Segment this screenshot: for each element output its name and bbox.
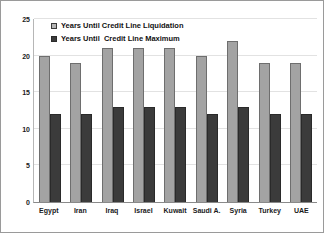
x-axis-label: Iran xyxy=(65,207,97,214)
x-axis-label: Turkey xyxy=(254,207,286,214)
bar-group xyxy=(286,19,317,202)
bar-syria-series-1 xyxy=(238,107,249,202)
bar-group xyxy=(65,19,96,202)
bar-chart-figure: 0510152025 EgyptIranIraqIsraelKuwaitSaud… xyxy=(0,0,324,233)
chart-legend: Years Until Credit Line LiquidationYears… xyxy=(51,20,184,46)
bar-group xyxy=(223,19,254,202)
bar-iran-series-0 xyxy=(70,63,81,202)
light-gray-square-icon xyxy=(51,23,57,29)
x-axis-label: Saudi A. xyxy=(191,207,223,214)
x-axis-label: Iraq xyxy=(96,207,128,214)
bar-group xyxy=(254,19,285,202)
bar-turkey-series-0 xyxy=(259,63,270,202)
x-axis-label: Syria xyxy=(222,207,254,214)
bar-group xyxy=(34,19,65,202)
x-axis-label: Kuwait xyxy=(159,207,191,214)
bar-syria-series-0 xyxy=(227,41,238,202)
dark-gray-square-icon xyxy=(51,36,57,42)
y-tick-label: 15 xyxy=(22,89,30,96)
bar-iraq-series-0 xyxy=(102,48,113,202)
x-axis-labels: EgyptIranIraqIsraelKuwaitSaudi A.SyriaTu… xyxy=(33,207,317,214)
bar-saudi-a-series-0 xyxy=(196,56,207,202)
legend-item: Years Until Credit Line Maximum xyxy=(51,33,184,44)
legend-label: Years Until Credit Line Maximum xyxy=(61,35,180,43)
bar-kuwait-series-0 xyxy=(164,48,175,202)
y-tick-label: 10 xyxy=(22,125,30,132)
bar-turkey-series-1 xyxy=(270,114,281,202)
y-tick-label: 5 xyxy=(26,162,30,169)
bar-iran-series-1 xyxy=(81,114,92,202)
bar-israel-series-1 xyxy=(144,107,155,202)
plot-area: 0510152025 xyxy=(33,19,317,203)
bar-saudi-a-series-1 xyxy=(207,114,218,202)
x-axis-label: Israel xyxy=(128,207,160,214)
bar-egypt-series-1 xyxy=(50,114,61,202)
y-tick-label: 20 xyxy=(22,52,30,59)
bar-group xyxy=(97,19,128,202)
x-axis-label: Egypt xyxy=(33,207,65,214)
y-tick-label: 25 xyxy=(22,16,30,23)
legend-item: Years Until Credit Line Liquidation xyxy=(51,20,184,31)
bar-kuwait-series-1 xyxy=(175,107,186,202)
bar-egypt-series-0 xyxy=(39,56,50,202)
bar-group xyxy=(128,19,159,202)
bar-groups xyxy=(34,19,317,202)
legend-label: Years Until Credit Line Liquidation xyxy=(61,22,184,30)
bar-group xyxy=(191,19,222,202)
y-tick-label: 0 xyxy=(26,199,30,206)
bar-israel-series-0 xyxy=(133,48,144,202)
bar-uae-series-1 xyxy=(301,114,312,202)
x-axis-label: UAE xyxy=(286,207,318,214)
bar-group xyxy=(160,19,191,202)
bar-uae-series-0 xyxy=(290,63,301,202)
bar-iraq-series-1 xyxy=(113,107,124,202)
